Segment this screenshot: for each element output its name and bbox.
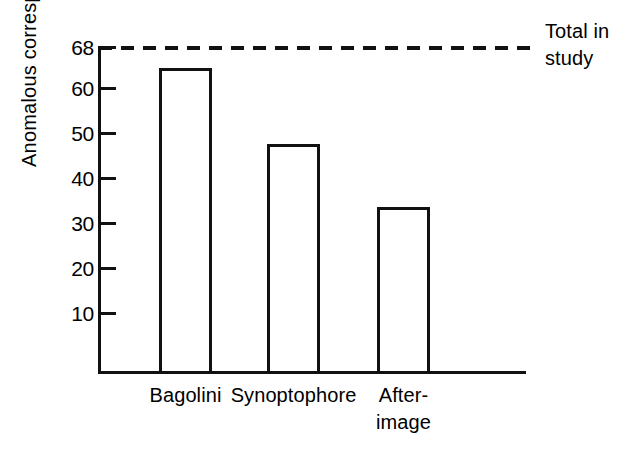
total-in-study-label-line1: Total in [545, 18, 609, 45]
bar [377, 207, 430, 374]
total-in-study-line [99, 46, 536, 50]
y-axis-tick-label: 68 [44, 37, 94, 58]
y-axis-line [98, 46, 101, 374]
y-axis-tick-label-text: 68 [48, 37, 94, 58]
y-axis-tick-label: 30 [44, 213, 94, 234]
y-axis-tick-label: 50 [44, 123, 94, 144]
x-axis-category-label-line2: image [334, 409, 474, 436]
y-axis-tick-label-text: 10 [48, 303, 94, 324]
y-axis-tick-label: 60 [44, 78, 94, 99]
y-axis-tick-mark [101, 312, 116, 315]
total-in-study-label-line2: study [545, 45, 609, 72]
bar [159, 68, 212, 374]
bar [267, 144, 320, 374]
y-axis-tick-label-text: 20 [48, 258, 94, 279]
y-axis-title-label: Anomalous correspondence [18, 0, 41, 167]
y-axis-tick-mark [101, 177, 116, 180]
x-axis-category-label-line1: After- [334, 382, 474, 409]
y-axis-tick-mark [101, 267, 116, 270]
y-axis-tick-label-text: 40 [48, 168, 94, 189]
y-axis-tick-label-text: 60 [48, 78, 94, 99]
y-axis-tick-label-text: 50 [48, 123, 94, 144]
y-axis-tick-mark [101, 132, 116, 135]
y-axis-tick-mark [101, 222, 116, 225]
y-axis-tick-mark [101, 87, 116, 90]
x-axis-category-label: After-image [334, 382, 474, 436]
bar-chart-figure: Anomalous correspondence 68605040302010 … [0, 0, 625, 453]
y-axis-tick-label: 20 [44, 258, 94, 279]
y-axis-title: Anomalous correspondence [12, 0, 46, 220]
y-axis-tick-label: 40 [44, 168, 94, 189]
y-axis-tick-label-text: 30 [48, 213, 94, 234]
y-axis-tick-label: 10 [44, 303, 94, 324]
total-in-study-label: Total in study [545, 18, 609, 72]
